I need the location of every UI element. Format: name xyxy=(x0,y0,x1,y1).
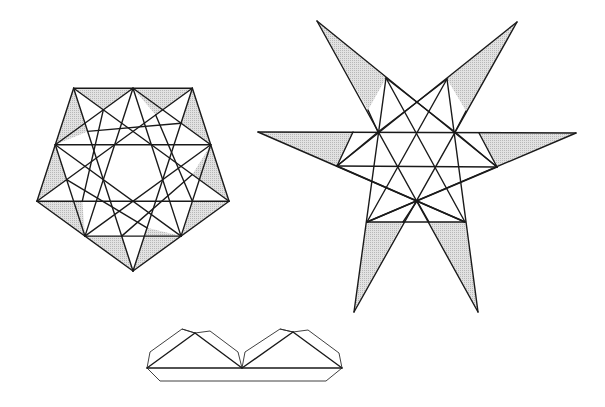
shaded-triangle xyxy=(181,88,211,144)
shaded-triangle xyxy=(74,88,133,110)
profile-edge xyxy=(182,329,195,333)
diagram-canvas xyxy=(0,0,605,407)
profile-view xyxy=(147,329,342,381)
profile-ridge xyxy=(147,333,195,368)
star-line xyxy=(386,78,455,132)
star-line xyxy=(367,79,447,222)
star-line xyxy=(337,166,465,222)
star-line xyxy=(378,79,447,132)
star-line xyxy=(367,167,497,222)
fold-line xyxy=(368,110,378,132)
profile-ridge xyxy=(195,333,242,368)
pentagon-net xyxy=(37,88,229,271)
star-line xyxy=(337,166,497,167)
shaded-triangle xyxy=(133,88,192,115)
star-net xyxy=(258,21,576,312)
profile-outline xyxy=(147,329,342,381)
shaded-triangle xyxy=(37,145,67,201)
star-diagonal xyxy=(85,88,133,236)
profile-edge xyxy=(280,329,293,332)
shaded-triangle xyxy=(317,21,386,110)
star-line xyxy=(386,78,465,222)
shaded-triangle xyxy=(447,22,517,111)
fold-line xyxy=(455,111,466,132)
